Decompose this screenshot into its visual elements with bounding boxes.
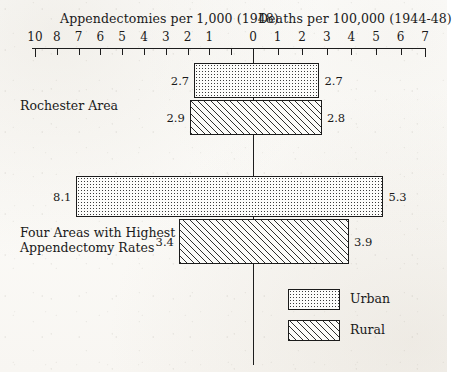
left-tick-mark-2 <box>188 48 189 55</box>
left-tick-mark-7 <box>79 48 80 55</box>
right-tick-mark-1 <box>278 48 279 55</box>
right-tick-label-2: 2 <box>298 30 306 44</box>
right-tick-mark-7 <box>425 48 426 57</box>
legend-swatch-urban <box>288 289 340 310</box>
left-tick-mark-3 <box>166 48 167 55</box>
bar-rural-group-2 <box>179 219 349 264</box>
group-label-2: Four Areas with Highest Appendectomy Rat… <box>20 225 175 255</box>
bar-value-right-rural-group-1: 2.8 <box>327 111 345 125</box>
bar-value-right-urban-group-2: 5.3 <box>388 190 406 204</box>
right-tick-label-4: 4 <box>348 30 356 44</box>
right-tick-label-0: 0 <box>249 30 257 44</box>
right-tick-mark-2 <box>302 48 303 55</box>
bar-value-left-urban-group-1: 2.7 <box>171 74 189 88</box>
left-axis-title: Appendectomies per 1,000 (1948) <box>60 11 279 26</box>
right-tick-label-6: 6 <box>397 30 405 44</box>
right-tick-label-5: 5 <box>372 30 380 44</box>
left-tick-mark-1 <box>209 48 210 55</box>
bar-value-left-rural-group-1: 2.9 <box>166 111 184 125</box>
left-tick-label-7: 7 <box>75 30 83 44</box>
left-tick-label-8: 8 <box>53 30 61 44</box>
bar-urban-group-1 <box>194 63 319 98</box>
group-label-1: Rochester Area <box>20 98 118 113</box>
left-tick-mark-6 <box>100 48 101 55</box>
right-tick-label-1: 1 <box>274 30 282 44</box>
left-tick-label-2: 2 <box>184 30 192 44</box>
legend-swatch-rural <box>288 320 340 341</box>
bar-value-left-urban-group-2: 8.1 <box>53 190 71 204</box>
bar-rural-group-1 <box>190 100 322 135</box>
left-tick-label-6: 6 <box>97 30 105 44</box>
legend-label-urban: Urban <box>350 291 390 306</box>
left-tick-mark-unlabelled <box>231 48 232 55</box>
horizontal-axis-line <box>32 48 425 49</box>
left-tick-label-5: 5 <box>118 30 126 44</box>
left-tick-label-10: 10 <box>27 30 42 44</box>
left-tick-label-3: 3 <box>162 30 170 44</box>
left-tick-mark-10 <box>35 48 36 57</box>
right-tick-mark-5 <box>376 48 377 55</box>
bar-value-right-urban-group-1: 2.7 <box>324 74 342 88</box>
right-tick-mark-6 <box>401 48 402 55</box>
bar-value-right-rural-group-2: 3.9 <box>354 235 372 249</box>
right-tick-mark-3 <box>327 48 328 55</box>
right-tick-label-3: 3 <box>323 30 331 44</box>
left-tick-mark-5 <box>122 48 123 55</box>
legend-label-rural: Rural <box>350 322 385 337</box>
right-tick-label-7: 7 <box>421 30 429 44</box>
right-axis-title: Deaths per 100,000 (1944-48) <box>258 11 452 26</box>
left-tick-mark-4 <box>144 48 145 55</box>
left-tick-label-4: 4 <box>140 30 148 44</box>
right-tick-mark-4 <box>351 48 352 55</box>
left-tick-mark-8 <box>57 48 58 55</box>
bar-urban-group-2 <box>76 176 383 217</box>
left-tick-label-1: 1 <box>206 30 214 44</box>
